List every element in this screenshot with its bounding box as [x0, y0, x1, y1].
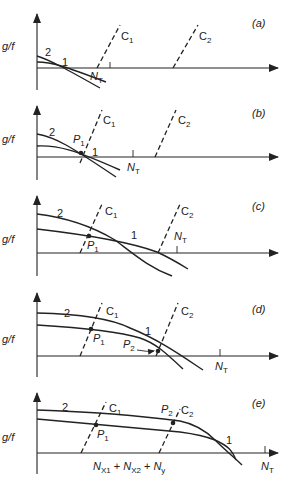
- line-c2: [173, 25, 198, 68]
- point-p1: [89, 327, 94, 332]
- svg-text:P1: P1: [87, 239, 99, 254]
- point-p1: [87, 234, 92, 239]
- svg-text:C2: C2: [181, 205, 194, 220]
- panel-a: g/f 2 1 C1 C2 NT (a): [2, 14, 278, 90]
- curve-1-label: 1: [145, 325, 151, 337]
- line-c1: [80, 110, 102, 163]
- curve-2-label: 2: [45, 46, 51, 58]
- curve-1: [37, 419, 236, 460]
- y-axis-label: g/f: [2, 40, 15, 52]
- nt-label: NT: [174, 230, 187, 245]
- svg-text:P2: P2: [123, 338, 135, 353]
- diagram-canvas: g/f 2 1 C1 C2 NT (a) g/f 2 1 C1 C2 P1 NT…: [0, 0, 296, 489]
- svg-text:C2: C2: [181, 404, 194, 419]
- arrow-to-p2: [137, 350, 154, 351]
- panel-c: g/f 2 1 C1 C2 P1 NT (c): [2, 196, 278, 276]
- curve-1: [37, 325, 183, 369]
- point-p2: [171, 421, 176, 426]
- panel-d: g/f 2 1 C1 C2 P1 P2 NT (d): [2, 293, 278, 377]
- svg-text:C1: C1: [106, 305, 119, 320]
- nt-label: NT: [261, 460, 274, 475]
- svg-text:P1: P1: [93, 332, 105, 347]
- panel-b: g/f 2 1 C1 C2 P1 NT (b): [2, 106, 278, 180]
- panel-label-e: (e): [252, 397, 266, 409]
- curve-1: [37, 229, 188, 269]
- curve-2-label: 2: [49, 126, 55, 138]
- line-c2: [155, 110, 176, 157]
- svg-text:P2: P2: [161, 403, 173, 418]
- svg-text:C2: C2: [199, 30, 212, 45]
- panel-e: g/f 2 1 C1 C2 P1 P2 NT NX1+NX2+Ny (e): [2, 393, 278, 475]
- curve-2-label: 2: [62, 401, 68, 413]
- curve-1-label: 1: [92, 146, 98, 158]
- svg-text:C2: C2: [181, 305, 194, 320]
- line-c2: [156, 303, 178, 356]
- point-p1: [94, 423, 99, 428]
- svg-text:P1: P1: [97, 428, 109, 443]
- svg-text:C2: C2: [178, 114, 191, 129]
- curve-1: [37, 146, 120, 170]
- y-axis-label: g/f: [2, 233, 15, 245]
- y-axis-label: g/f: [2, 133, 15, 145]
- y-axis-label: g/f: [2, 431, 15, 443]
- panel-label-c: (c): [252, 200, 265, 212]
- svg-text:C1: C1: [103, 114, 116, 129]
- curve-2: [37, 410, 242, 465]
- curve-2-label: 2: [57, 207, 63, 219]
- nt-label: NT: [215, 360, 228, 375]
- y-axis-label: g/f: [2, 333, 15, 345]
- curve-1-label: 1: [226, 434, 232, 446]
- curve-2-label: 2: [64, 307, 70, 319]
- svg-text:P1: P1: [73, 133, 85, 148]
- point-p1: [79, 151, 84, 156]
- svg-text:C1: C1: [121, 30, 134, 45]
- svg-text:C1: C1: [105, 205, 118, 220]
- curve-1-label: 1: [62, 56, 68, 68]
- line-c1: [97, 25, 120, 68]
- curve-2: [37, 313, 203, 370]
- panel-label-a: (a): [252, 17, 266, 29]
- panel-label-d: (d): [252, 303, 266, 315]
- panel-label-b: (b): [252, 107, 266, 119]
- nt-label: NT: [127, 161, 140, 176]
- sum-label: NX1+NX2+Ny: [93, 460, 165, 475]
- curve-2: [37, 214, 172, 276]
- line-c2: [158, 204, 180, 253]
- curve-1-label: 1: [131, 229, 137, 241]
- point-p2: [156, 349, 161, 354]
